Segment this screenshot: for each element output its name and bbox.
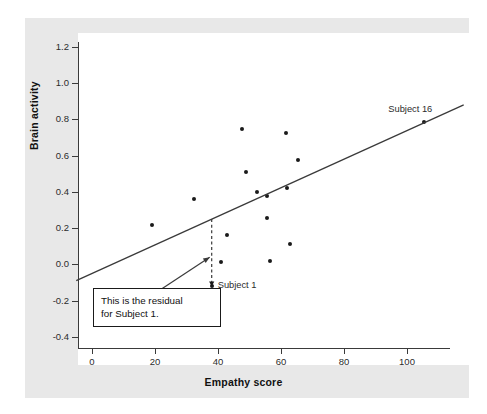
y-tick-label: 1.0: [36, 77, 69, 88]
y-tick-label: 1.2: [36, 41, 69, 52]
x-tick-label: 20: [135, 356, 175, 367]
data-point: [219, 260, 223, 264]
y-tick-label: 0.4: [36, 186, 69, 197]
data-point: [284, 131, 288, 135]
chart-figure: 1.21.00.80.60.40.20.0-0.2-0.402040608010…: [0, 0, 487, 414]
x-tick-mark: [407, 348, 408, 354]
y-tick-mark: [72, 192, 78, 193]
y-tick-mark: [72, 228, 78, 229]
y-axis-line: [78, 42, 79, 348]
y-tick-label: -0.2: [36, 295, 69, 306]
y-tick-mark: [72, 264, 78, 265]
callout-line-2: for Subject 1.: [101, 307, 214, 320]
subject-16-label: Subject 16: [388, 104, 432, 114]
y-tick-label: 0.2: [36, 222, 69, 233]
y-tick-label: -0.4: [36, 331, 69, 342]
y-tick-label: 0.0: [36, 258, 69, 269]
y-tick-label: 0.6: [36, 150, 69, 161]
x-axis-line: [78, 348, 450, 349]
x-tick-label: 40: [198, 356, 238, 367]
y-axis-title: Brain activity: [28, 81, 40, 150]
figure-card: [25, 18, 469, 398]
callout-line-1: This is the residual: [101, 294, 214, 307]
y-tick-mark: [72, 301, 78, 302]
x-tick-label: 0: [72, 356, 112, 367]
x-tick-label: 60: [261, 356, 301, 367]
x-tick-label: 80: [324, 356, 364, 367]
y-tick-mark: [72, 119, 78, 120]
y-tick-mark: [72, 83, 78, 84]
x-tick-mark: [344, 348, 345, 354]
y-tick-label: 0.8: [36, 113, 69, 124]
x-tick-mark: [92, 348, 93, 354]
x-tick-label: 100: [387, 356, 427, 367]
x-tick-mark: [218, 348, 219, 354]
subject-1-label: Subject 1: [218, 280, 257, 290]
x-axis-title: Empathy score: [0, 376, 487, 388]
data-point: [268, 259, 272, 263]
y-tick-mark: [72, 156, 78, 157]
y-tick-mark: [72, 47, 78, 48]
x-tick-mark: [155, 348, 156, 354]
y-tick-mark: [72, 337, 78, 338]
residual-callout-box: This is the residual for Subject 1.: [93, 288, 221, 327]
x-tick-mark: [281, 348, 282, 354]
